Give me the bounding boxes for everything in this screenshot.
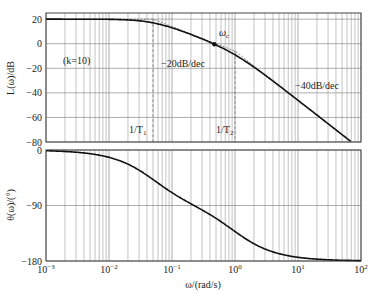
x-tick-exponent: 2 <box>364 263 368 271</box>
magnitude-y-tick-label: −40 <box>26 87 42 98</box>
magnitude-y-tick-label: −20 <box>26 63 42 74</box>
x-tick-base: 10 <box>37 264 47 275</box>
t2-label-sub: 2 <box>230 129 234 137</box>
magnitude-frame <box>46 13 361 142</box>
x-tick-base: 10 <box>228 264 238 275</box>
x-tick-base: 10 <box>291 264 301 275</box>
x-axis-label: ω/(rad/s) <box>185 279 220 291</box>
phase-grid <box>46 150 361 261</box>
t1-label-main: 1/T <box>129 124 143 135</box>
magnitude-y-tick-label: 0 <box>37 38 42 49</box>
phase-y-axis-label: θ(ω)/(°) <box>5 189 17 220</box>
x-tick-exponent: −1 <box>173 263 181 271</box>
slope-40-annotation: −40dB/dec <box>295 80 340 91</box>
x-ticks: 10−310−210−1100101102 <box>37 263 368 275</box>
magnitude-y-tick-label: 20 <box>32 14 42 25</box>
x-tick-label: 10−3 <box>37 263 55 275</box>
gain-annotation: (k=10) <box>63 55 90 67</box>
magnitude-y-axis-label: L(ω)/dB <box>5 61 17 95</box>
x-tick-label: 10−1 <box>163 263 181 275</box>
crossover-label: ωc <box>219 27 230 40</box>
x-tick-exponent: −2 <box>110 263 118 271</box>
x-tick-base: 10 <box>354 264 364 275</box>
x-tick-label: 102 <box>354 263 368 275</box>
crossover-point <box>212 42 216 46</box>
x-tick-exponent: 0 <box>238 263 242 271</box>
x-tick-label: 100 <box>228 263 242 275</box>
x-tick-exponent: 1 <box>301 263 305 271</box>
t2-label-main: 1/T <box>216 124 230 135</box>
x-tick-base: 10 <box>100 264 110 275</box>
x-tick-exponent: −3 <box>47 263 55 271</box>
bode-plot: 200−20−40−60−80 0−90−180 10−310−210−1100… <box>0 0 374 294</box>
crossover-label-sub: c <box>226 32 230 40</box>
phase-y-ticks: 0−90−180 <box>21 145 42 267</box>
x-tick-label: 101 <box>291 263 305 275</box>
x-tick-label: 10−2 <box>100 263 118 275</box>
t1-label: 1/T1 <box>129 124 147 137</box>
phase-y-tick-label: 0 <box>37 145 42 156</box>
phase-y-tick-label: −90 <box>26 200 42 211</box>
x-tick-base: 10 <box>163 264 173 275</box>
magnitude-y-tick-label: −60 <box>26 112 42 123</box>
t1-label-sub: 1 <box>143 129 147 137</box>
magnitude-grid <box>46 13 361 142</box>
slope-20-annotation: −20dB/dec <box>161 58 206 69</box>
crossover-label-main: ω <box>219 27 226 38</box>
magnitude-y-ticks: 200−20−40−60−80 <box>26 14 42 148</box>
